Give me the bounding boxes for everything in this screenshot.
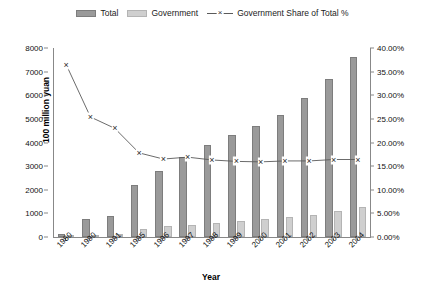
y-axis-left-tick-mark (44, 71, 48, 72)
y-axis-left-tick-label: 5000 (25, 114, 43, 123)
legend-label-government: Government (151, 8, 198, 18)
y-axis-right-tick-label: 30.00% (377, 91, 404, 100)
line-marker-x-icon-1990: × (87, 112, 93, 121)
line-marker-x-icon-1980: × (63, 60, 69, 69)
bar-total-1997 (179, 157, 187, 237)
bar-total-1998 (204, 145, 212, 237)
line-marker-x-icon-1991: × (112, 124, 118, 133)
legend-swatch-total (76, 10, 96, 17)
y-axis-right-tick-label: 5.00% (377, 209, 400, 218)
y-axis-left-tick-label: 4000 (25, 138, 43, 147)
bar-total-2004 (350, 57, 358, 237)
bar-total-1996 (155, 171, 163, 237)
legend-item-government: Government (127, 8, 198, 18)
y-axis-left-ticks: 010002000300040005000600070008000 (10, 48, 48, 237)
bar-total-2002 (301, 98, 309, 237)
bar-total-2003 (325, 79, 333, 237)
y-axis-left-tick-mark (44, 142, 48, 143)
y-axis-right-tick-label: 35.00% (377, 67, 404, 76)
y-axis-left-tick-mark (44, 95, 48, 96)
y-axis-left-tick-label: 2000 (25, 185, 43, 194)
legend-label-government-share: Government Share of Total % (237, 8, 348, 18)
y-axis-left-tick-label: 8000 (25, 44, 43, 53)
bar-total-1999 (228, 135, 236, 237)
y-axis-right-tick-label: 40.00% (377, 44, 404, 53)
legend-label-total: Total (100, 8, 118, 18)
y-axis-right-tick-label: 15.00% (377, 162, 404, 171)
legend-line-marker-x-icon: × (207, 9, 233, 18)
y-axis-left-tick-mark (44, 118, 48, 119)
bar-total-2000 (252, 126, 260, 237)
y-axis-right-tick-label: 10.00% (377, 185, 404, 194)
y-axis-right-ticks: 0.00%5.00%10.00%15.00%20.00%25.00%30.00%… (370, 48, 422, 237)
y-axis-left-tick-label: 7000 (25, 67, 43, 76)
y-axis-left-tick-mark (44, 213, 48, 214)
legend-swatch-government (127, 10, 147, 17)
y-axis-left-tick-label: 6000 (25, 91, 43, 100)
line-marker-x-icon-1995: × (136, 148, 142, 157)
line-series-layer: ××××××××××××× (54, 48, 370, 237)
x-marker-icon: × (217, 9, 224, 17)
chart-container: Total Government × Government Share of T… (0, 0, 425, 289)
y-axis-right-tick-label: 25.00% (377, 114, 404, 123)
y-axis-left-tick-mark (44, 166, 48, 167)
y-axis-left-tick-mark (44, 237, 48, 238)
plot-area: ××××××××××××× (53, 48, 371, 238)
x-axis-ticks: 1980199019911995199619971998199920002001… (53, 238, 369, 268)
legend-item-government-share: × Government Share of Total % (207, 8, 348, 18)
y-axis-left-tick-label: 3000 (25, 162, 43, 171)
y-axis-right-tick-label: 0.00% (377, 233, 400, 242)
y-axis-left-tick-label: 1000 (25, 209, 43, 218)
legend-item-total: Total (76, 8, 118, 18)
y-axis-left-tick-mark (44, 48, 48, 49)
y-axis-left-tick-label: 0 (39, 233, 43, 242)
line-series-path (54, 48, 370, 237)
x-axis-title: Year (53, 272, 369, 282)
y-axis-right-tick-label: 20.00% (377, 138, 404, 147)
chart-legend: Total Government × Government Share of T… (0, 8, 425, 18)
bar-total-2001 (277, 115, 285, 237)
bar-total-1995 (131, 185, 139, 237)
y-axis-left-tick-mark (44, 189, 48, 190)
line-marker-x-icon-1996: × (160, 155, 166, 164)
